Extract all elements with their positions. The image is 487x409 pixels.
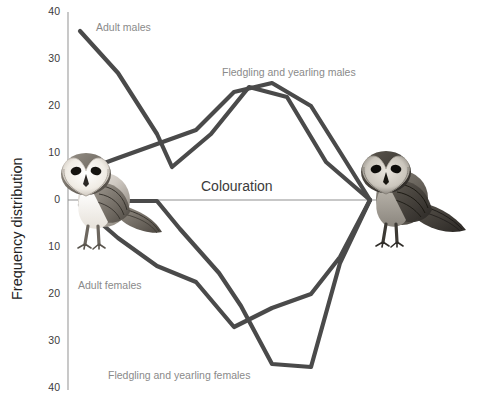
y-tick-label: 20 — [48, 287, 60, 299]
chart-figure: 40 30 20 10 0 10 20 30 40 Frequency dist… — [0, 0, 487, 409]
y-tick-label: 10 — [48, 146, 60, 158]
series-label-adult-males: Adult males — [96, 21, 151, 33]
y-tick-label: 10 — [48, 240, 60, 252]
series-label-fledgling-yearling-males: Fledgling and yearling males — [222, 66, 356, 78]
y-axis-title: Frequency distribution — [9, 157, 25, 300]
y-tick-label: 40 — [48, 381, 60, 393]
dark-barn-owl-illustration — [361, 151, 466, 247]
series-label-adult-females: Adult females — [78, 279, 142, 291]
y-tick-label: 30 — [48, 334, 60, 346]
y-tick-label: 0 — [54, 193, 60, 205]
series-line-adult-males — [80, 31, 370, 200]
line-chart: 40 30 20 10 0 10 20 30 40 Frequency dist… — [0, 0, 487, 409]
y-tick-label: 20 — [48, 99, 60, 111]
series-label-fledgling-yearling-females: Fledgling and yearling females — [108, 369, 250, 381]
x-axis-title: Colouration — [201, 178, 273, 194]
y-tick-label: 40 — [48, 5, 60, 17]
y-tick-label: 30 — [48, 52, 60, 64]
